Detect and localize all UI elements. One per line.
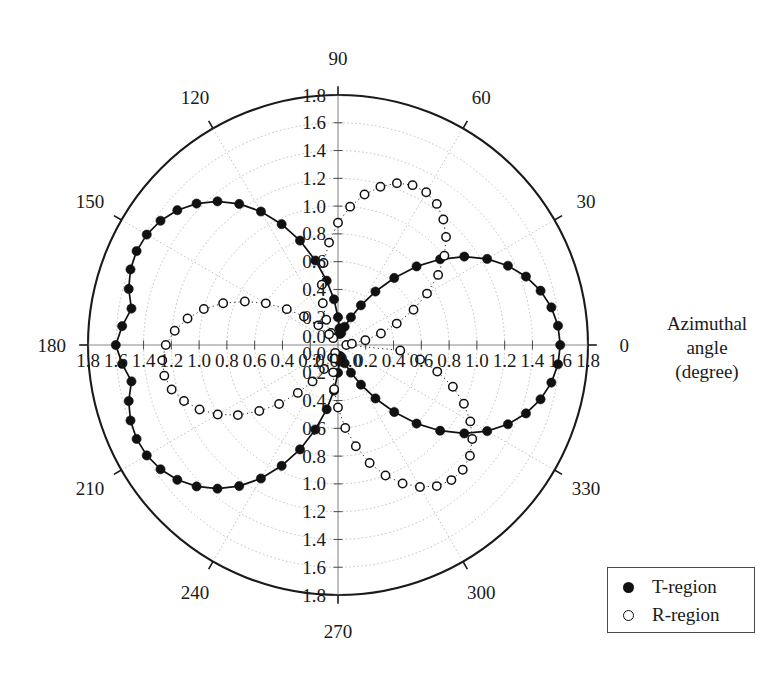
r-tick-label: 1.8 (576, 350, 600, 371)
legend-label-t-region: T-region (652, 576, 717, 598)
data-point-filled (173, 206, 182, 215)
data-point-filled (412, 262, 421, 271)
data-point-filled (156, 216, 165, 225)
r-tick-label: 1.0 (465, 350, 489, 371)
data-point-filled (192, 482, 201, 491)
data-point-open (408, 181, 416, 189)
r-tick-label: 0.0 (338, 350, 362, 371)
data-point-filled (553, 321, 562, 330)
data-point-open (466, 417, 474, 425)
data-point-filled (335, 324, 344, 333)
data-point-open (219, 299, 227, 307)
r-tick-label: 1.8 (76, 350, 100, 371)
r-tick-label: 1.4 (521, 350, 545, 371)
data-point-open (434, 271, 442, 279)
theta-tick-label: 210 (76, 478, 105, 499)
data-point-open (262, 299, 270, 307)
data-point-filled (483, 254, 492, 263)
data-point-filled (126, 265, 135, 274)
r-tick-label: 1.2 (159, 350, 183, 371)
r-tick-label: 1.2 (493, 350, 517, 371)
r-tick-label: 0.8 (302, 223, 326, 244)
data-point-filled (503, 420, 512, 429)
r-tick-label: 0.8 (437, 350, 461, 371)
data-point-open (162, 341, 170, 349)
legend-item-t-region: T-region (608, 573, 754, 601)
data-point-open (393, 179, 401, 187)
data-point-open (200, 305, 208, 313)
r-tick-label: 0.6 (243, 350, 267, 371)
data-point-filled (213, 484, 222, 493)
data-point-filled (483, 427, 492, 436)
data-point-open (334, 219, 342, 227)
r-tick-label: 1.6 (548, 350, 572, 371)
data-point-filled (277, 220, 286, 229)
r-tick-label: 0.2 (302, 362, 326, 383)
open-circle-marker-icon (614, 610, 642, 621)
theta-tick-label: 270 (324, 621, 353, 642)
data-point-filled (235, 481, 244, 490)
data-point-filled (235, 199, 244, 208)
data-point-filled (111, 340, 120, 349)
data-point-open (275, 400, 283, 408)
axis-label-line-3: (degree) (637, 360, 777, 384)
r-tick-label: 0.4 (271, 350, 295, 371)
data-point-open (433, 482, 441, 490)
r-tick-label: 1.8 (302, 585, 326, 606)
data-point-filled (547, 378, 556, 387)
data-point-open (360, 190, 368, 198)
data-point-filled (127, 377, 136, 386)
data-point-filled (173, 475, 182, 484)
data-point-filled (126, 416, 135, 425)
data-point-filled (556, 340, 565, 349)
data-point-open (409, 306, 417, 314)
data-point-open (352, 442, 360, 450)
data-point-filled (390, 273, 399, 282)
theta-tick-label: 300 (467, 582, 496, 603)
data-point-open (294, 389, 302, 397)
theta-tick-label: 90 (329, 48, 348, 69)
data-point-open (416, 483, 424, 491)
r-tick-label: 0.2 (302, 307, 326, 328)
data-point-open (423, 289, 431, 297)
data-point-filled (124, 284, 133, 293)
r-tick-label: 0.6 (409, 350, 433, 371)
r-tick-label: 1.6 (302, 557, 326, 578)
data-point-filled (547, 303, 556, 312)
data-point-open (459, 466, 467, 474)
theta-tick-label: 60 (472, 87, 491, 108)
data-point-open (234, 411, 242, 419)
theta-tick-label: 180 (38, 335, 67, 356)
data-point-filled (536, 395, 545, 404)
data-point-open (167, 385, 175, 393)
data-point-filled (356, 380, 365, 389)
data-point-open (466, 452, 474, 460)
data-point-filled (460, 429, 469, 438)
r-tick-label: 1.4 (132, 350, 156, 371)
r-tick-label: 1.0 (302, 196, 326, 217)
data-point-open (195, 405, 203, 413)
data-point-filled (142, 230, 151, 239)
data-point-open (180, 397, 188, 405)
data-point-filled (521, 409, 530, 418)
r-tick-label: 1.6 (302, 112, 326, 133)
data-point-open (346, 202, 354, 210)
data-point-open (422, 188, 430, 196)
data-point-open (449, 383, 457, 391)
data-point-filled (256, 474, 265, 483)
r-tick-label: 1.8 (302, 85, 326, 106)
data-point-open (381, 471, 389, 479)
data-point-open (334, 403, 342, 411)
data-point-open (341, 424, 349, 432)
theta-tick-label: 30 (576, 191, 595, 212)
axis-label-line-2: angle (637, 336, 777, 360)
r-tick-label: 0.8 (215, 350, 239, 371)
data-point-filled (156, 465, 165, 474)
data-point-filled (256, 207, 265, 216)
r-tick-label: 0.0 (302, 343, 326, 364)
data-point-filled (346, 313, 355, 322)
data-point-open (439, 215, 447, 223)
data-point-filled (132, 246, 141, 255)
data-point-open (160, 371, 168, 379)
r-tick-label: 1.4 (302, 140, 326, 161)
